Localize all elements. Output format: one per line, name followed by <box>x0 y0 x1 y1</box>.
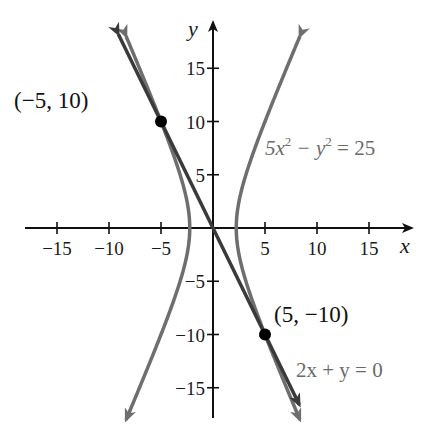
y-tick-label: 5 <box>196 165 206 186</box>
x-tick-label: 15 <box>360 238 379 259</box>
line-equation-label: 2x + y = 0 <box>296 358 383 382</box>
line-2x-plus-y <box>118 34 299 405</box>
point-b-label: (5, −10) <box>274 302 348 327</box>
point-b-marker <box>259 329 271 341</box>
y-axis-label: y <box>186 16 198 41</box>
point-a-label: (−5, 10) <box>14 88 88 113</box>
x-tick-label: −15 <box>42 238 72 259</box>
x-axis-label: x <box>399 233 410 258</box>
x-tick-label: −10 <box>94 238 124 259</box>
y-tick-label: 15 <box>186 58 205 79</box>
line-graph <box>118 34 299 405</box>
y-tick-label: −15 <box>175 378 205 399</box>
point-a-marker <box>155 116 167 128</box>
chart-canvas: −15−10−551015 x 15105−5−10−15 y (−5, 10)… <box>0 0 447 434</box>
y-tick-label: −10 <box>175 325 205 346</box>
y-tick-label: 10 <box>186 112 205 133</box>
x-tick-label: 5 <box>260 238 270 259</box>
x-tick-label: −5 <box>151 238 171 259</box>
hyperbola-equation-label: 5x2 − y2 = 25 <box>265 134 375 160</box>
y-tick-label: −5 <box>185 271 205 292</box>
y-axis: 15105−5−10−15 y <box>175 16 219 418</box>
x-tick-label: 10 <box>308 238 327 259</box>
